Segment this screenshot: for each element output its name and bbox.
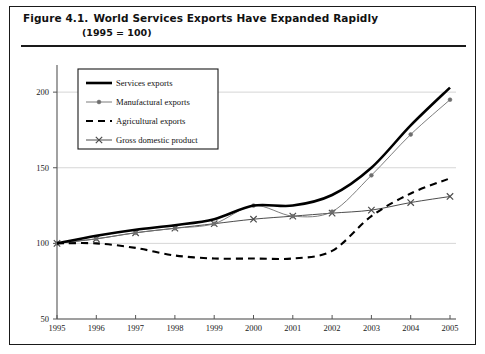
x-tick-label: 2002 (324, 323, 341, 333)
x-tick-label: 2000 (245, 323, 262, 333)
page-title: World Services Exports Have Expanded Rap… (93, 12, 378, 24)
data-point-marker (97, 100, 101, 104)
series-gross-domestic-product (54, 193, 453, 246)
data-point-marker (448, 98, 452, 102)
data-point-marker (409, 133, 413, 137)
figure-heading: Figure 4.1.World Services Exports Have E… (23, 12, 463, 24)
x-tick-label: 1996 (88, 323, 105, 333)
data-point-marker (330, 210, 334, 214)
y-tick-label: 150 (36, 163, 49, 173)
figure-frame: Figure 4.1.World Services Exports Have E… (9, 6, 476, 345)
x-tick-label: 2004 (402, 323, 420, 333)
legend-label: Manufactural exports (116, 97, 190, 107)
x-tick-label: 1995 (49, 323, 66, 333)
x-tick-label: 1998 (166, 323, 183, 333)
y-axis-group: 50100150200 (36, 65, 57, 324)
x-tick-label: 1997 (127, 323, 144, 333)
x-tick-label: 2003 (363, 323, 380, 333)
legend-label: Agricultural exports (116, 116, 186, 126)
data-point-marker (212, 222, 216, 226)
y-tick-label: 100 (36, 238, 49, 248)
line-chart: 50100150200 1995199619971998199920002001… (10, 47, 477, 344)
data-point-marker (173, 226, 177, 230)
page-bottom-margin (0, 347, 485, 354)
data-point-marker (291, 214, 295, 218)
y-tick-label: 200 (36, 87, 49, 97)
figure-title-block: Figure 4.1.World Services Exports Have E… (10, 7, 477, 47)
x-tick-label: 2001 (284, 323, 301, 333)
x-tick-label: 1999 (206, 323, 223, 333)
data-point-marker (370, 173, 374, 177)
figure-number: Figure 4.1. (23, 12, 88, 24)
figure-subtitle: (1995 = 100) (82, 27, 152, 38)
legend-label: Gross domestic product (116, 135, 198, 145)
chart-plot-area: 50100150200 1995199619971998199920002001… (10, 47, 477, 344)
data-point-marker (94, 237, 98, 241)
x-tick-label: 2005 (442, 323, 459, 333)
legend-label: Services exports (116, 78, 173, 88)
x-axis-group: 1995199619971998199920002001200220032004… (49, 315, 459, 333)
figure-page: Figure 4.1.World Services Exports Have E… (0, 0, 485, 354)
data-point-marker (134, 231, 138, 235)
chart-legend: Services exportsManufactural exportsAgri… (78, 69, 218, 149)
